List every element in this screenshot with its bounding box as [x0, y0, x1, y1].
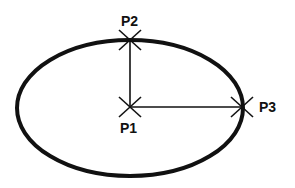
label-p1: P1	[120, 120, 137, 136]
label-p3: P3	[259, 99, 276, 115]
label-p2: P2	[121, 13, 138, 29]
ellipse-diagram: P1 P2 P3	[0, 0, 295, 188]
